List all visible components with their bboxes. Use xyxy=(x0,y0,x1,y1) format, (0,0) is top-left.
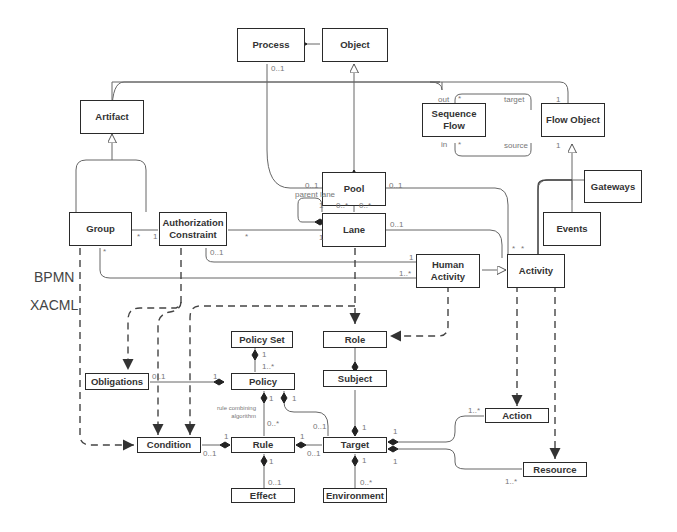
class-role: Role xyxy=(323,331,387,348)
class-label: Policy Set xyxy=(239,334,284,346)
class-condition: Condition xyxy=(137,437,201,453)
multiplicity: 0..* xyxy=(360,478,372,487)
multiplicity: 1 xyxy=(300,432,304,441)
multiplicity: * xyxy=(458,94,461,103)
class-environment: Environment xyxy=(323,488,387,503)
class-label: Subject xyxy=(338,373,372,385)
multiplicity: * xyxy=(137,232,140,241)
class-subject: Subject xyxy=(323,370,387,387)
class-obligations: Obligations xyxy=(85,373,149,390)
class-label: Policy xyxy=(249,376,277,388)
class-authorization-constraint: Authorization Constraint xyxy=(159,212,227,246)
class-label: Action xyxy=(502,410,532,422)
class-label: Rule xyxy=(253,439,274,451)
multiplicity: 0..1 xyxy=(389,181,402,190)
section-label-bpmn: BPMN xyxy=(34,269,74,285)
class-policy-set: Policy Set xyxy=(231,331,293,348)
class-label: Gateways xyxy=(591,181,635,193)
class-label: Flow Object xyxy=(546,114,600,126)
class-policy: Policy xyxy=(231,373,295,390)
class-label: Process xyxy=(253,39,290,51)
role-name: in xyxy=(441,140,447,149)
multiplicity: 1 xyxy=(556,95,560,104)
class-action: Action xyxy=(485,408,549,423)
role-name: parent lane xyxy=(295,190,335,199)
class-activity: Activity xyxy=(507,254,565,288)
multiplicity: 1 xyxy=(213,372,217,381)
class-sequence-flow: Sequence Flow xyxy=(422,103,486,137)
class-rule: Rule xyxy=(231,437,295,453)
multiplicity: 1 xyxy=(269,457,273,466)
class-label: Artifact xyxy=(95,111,128,123)
multiplicity: * xyxy=(521,244,524,253)
class-label: Object xyxy=(340,39,370,51)
class-target: Target xyxy=(323,437,387,453)
class-effect: Effect xyxy=(231,488,295,503)
role-name: out xyxy=(438,95,449,104)
class-label: Environment xyxy=(326,490,384,502)
class-label: Role xyxy=(345,334,366,346)
class-label: Human Activity xyxy=(426,259,470,283)
section-label-xacml: XACML xyxy=(30,297,78,313)
multiplicity: 1..* xyxy=(399,269,411,278)
multiplicity: 1 xyxy=(319,201,323,210)
class-label: Target xyxy=(341,439,369,451)
class-lane: Lane xyxy=(322,213,386,247)
class-resource: Resource xyxy=(523,462,587,477)
multiplicity: 1 xyxy=(319,233,323,242)
class-label: Group xyxy=(86,223,115,235)
class-label: Condition xyxy=(147,439,191,451)
multiplicity: * xyxy=(458,140,461,149)
multiplicity: 1 xyxy=(262,350,266,359)
multiplicity: 0..1 xyxy=(210,248,223,257)
multiplicity: 1..* xyxy=(505,477,517,486)
multiplicity: 1 xyxy=(269,394,273,403)
multiplicity: 1 xyxy=(292,394,296,403)
class-label: Authorization Constraint xyxy=(162,217,224,241)
multiplicity: 1..* xyxy=(262,362,274,371)
multiplicity: * xyxy=(103,247,106,256)
class-label: Resource xyxy=(533,464,576,476)
class-flow-object: Flow Object xyxy=(541,103,605,137)
multiplicity: 0..1 xyxy=(152,372,165,381)
multiplicity: 1 xyxy=(556,141,560,150)
multiplicity: 0..1 xyxy=(305,181,318,190)
role-name: target xyxy=(504,95,524,104)
multiplicity: 0..1 xyxy=(203,449,216,458)
class-human-activity: Human Activity xyxy=(416,254,480,288)
class-label: Pool xyxy=(344,183,365,195)
class-label: Events xyxy=(556,223,587,235)
multiplicity: 1 xyxy=(393,457,397,466)
multiplicity: 1 xyxy=(393,427,397,436)
multiplicity: 0..1 xyxy=(390,220,403,229)
multiplicity: 0..1 xyxy=(268,478,281,487)
class-label: Lane xyxy=(343,224,365,236)
class-label: Activity xyxy=(519,265,553,277)
class-label: Obligations xyxy=(91,376,143,388)
multiplicity: 0..* xyxy=(359,201,371,210)
class-label: Sequence Flow xyxy=(429,108,479,132)
class-process: Process xyxy=(237,28,305,62)
class-events: Events xyxy=(543,212,601,246)
class-label: Effect xyxy=(250,490,276,502)
rule-combining-algorithm-note: rule combining algorithm xyxy=(210,404,256,420)
class-gateways: Gateways xyxy=(584,170,642,203)
multiplicity: 1..* xyxy=(468,406,480,415)
multiplicity: 0..1 xyxy=(307,449,320,458)
multiplicity: 1 xyxy=(362,423,366,432)
multiplicity: 0..* xyxy=(267,419,279,428)
multiplicity: 0..1 xyxy=(271,64,284,73)
class-object: Object xyxy=(322,28,388,62)
multiplicity: * xyxy=(245,232,248,241)
multiplicity: 0..* xyxy=(336,201,348,210)
class-group: Group xyxy=(69,212,132,246)
multiplicity: 1 xyxy=(153,232,157,241)
class-artifact: Artifact xyxy=(80,100,144,134)
uml-diagram: Process Object Artifact Sequence Flow Fl… xyxy=(0,0,677,532)
multiplicity: 1 xyxy=(362,456,366,465)
class-pool: Pool xyxy=(322,172,386,206)
multiplicity: 0..1 xyxy=(313,422,326,431)
multiplicity: 1 xyxy=(224,432,228,441)
multiplicity: 1 xyxy=(409,253,413,262)
role-name: source xyxy=(504,141,528,150)
